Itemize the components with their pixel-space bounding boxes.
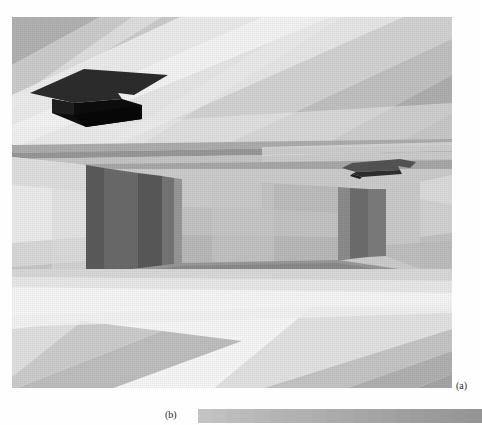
floor-surface	[12, 269, 452, 388]
scale-bar-segment	[410, 409, 425, 423]
scale-bar-segment	[297, 409, 312, 423]
scale-bar-segment	[382, 409, 397, 423]
scale-bar-segment	[325, 409, 340, 423]
scale-bar-segment	[212, 409, 227, 423]
wall-surfaces	[12, 157, 452, 287]
scale-bar-segment	[283, 409, 298, 423]
scale-bar-segment	[226, 409, 241, 423]
scale-bar-segment	[424, 409, 439, 423]
scale-bar-segment	[439, 409, 454, 423]
scale-bar-segment	[354, 409, 369, 423]
ceiling-luminaire-near	[30, 69, 170, 125]
scale-bar-segment	[467, 409, 482, 423]
panel-label-b: (b)	[165, 409, 177, 420]
grayscale-scale-bar	[198, 409, 481, 423]
scale-bar-segment	[368, 409, 383, 423]
scale-bar-segment	[311, 409, 326, 423]
scale-bar-segment	[240, 409, 255, 423]
scale-bar-segment	[453, 409, 468, 423]
scale-bar-segment	[269, 409, 284, 423]
scale-bar-segment	[255, 409, 270, 423]
rendered-interior-scene	[12, 17, 452, 388]
scale-bar-segment	[198, 409, 213, 423]
panel-label-a: (a)	[456, 380, 467, 391]
scale-bar-segment	[340, 409, 355, 423]
scale-bar-segment	[396, 409, 411, 423]
